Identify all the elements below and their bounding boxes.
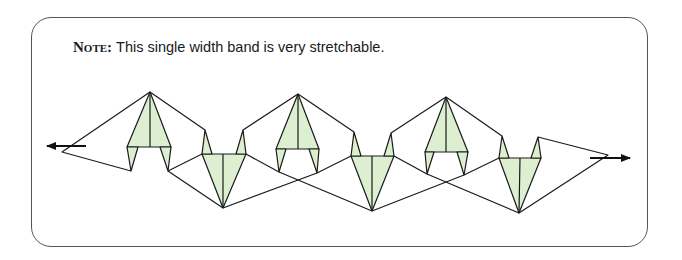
band-diagram [0, 0, 682, 260]
unit-upright-3 [425, 97, 468, 175]
unit-inverted-3 [499, 136, 541, 213]
unit-upright-2 [276, 94, 319, 173]
unit-inverted-1 [202, 130, 246, 208]
unit-inverted-2 [351, 132, 394, 211]
